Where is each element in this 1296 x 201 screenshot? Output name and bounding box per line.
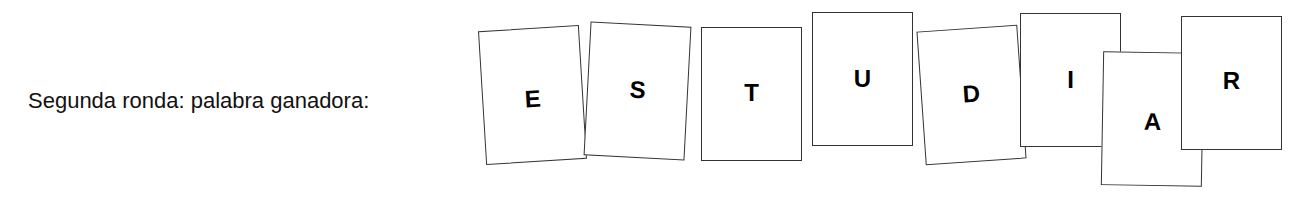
letter-card-t: T [701,27,802,161]
letter-card-u: U [812,12,913,146]
letter-card-s: S [584,21,692,160]
caption-label: Segunda ronda: palabra ganadora: [28,88,369,114]
card-letter: S [587,73,687,106]
card-letter: E [482,82,583,116]
card-letter: D [921,77,1022,112]
card-letter: T [702,79,801,107]
letter-card-e: E [478,25,587,165]
letter-card-r: R [1181,16,1282,150]
card-letter: R [1182,67,1281,95]
letter-card-d: D [916,25,1026,166]
card-letter: U [813,65,912,93]
